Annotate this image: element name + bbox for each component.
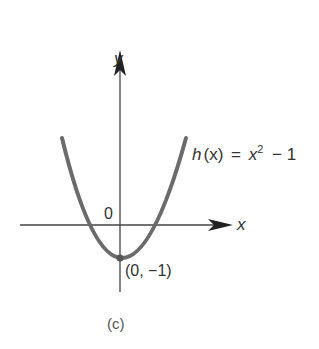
y-axis-label: y [114,50,123,67]
x-axis-label: x [237,216,246,233]
function-exponent: 2 [257,143,263,155]
vertex-point [117,255,124,262]
vertex-label: (0, −1) [125,263,172,279]
function-equals: = [231,145,241,164]
function-arg: (x) [203,145,223,164]
graph-canvas [0,0,319,349]
origin-label: 0 [104,206,113,222]
figure-caption: (c) [107,316,125,331]
function-base: x [249,145,258,164]
function-name: h [192,145,201,164]
parabola-curve [62,138,186,258]
function-rest: − 1 [272,145,296,164]
function-label: h(x) = x2 − 1 [192,144,296,163]
